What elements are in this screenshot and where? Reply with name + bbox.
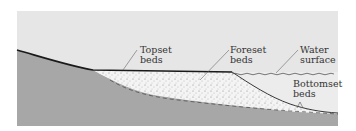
water-surface-label: Water surface	[300, 44, 336, 65]
delta-diagram: Topset beds Foreset beds Water surface B…	[0, 0, 356, 131]
